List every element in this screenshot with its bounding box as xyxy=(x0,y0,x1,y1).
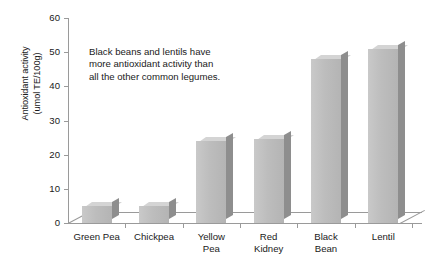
bar xyxy=(82,206,112,223)
y-axis-tick-label: 20 xyxy=(34,150,60,160)
bar-front-face xyxy=(368,49,398,223)
y-axis-tick-label: 0 xyxy=(34,218,60,228)
bar-side-face xyxy=(112,198,119,219)
bar-side-face xyxy=(284,131,291,219)
chart-annotation: Black beans and lentils have more antiox… xyxy=(89,46,294,83)
bar xyxy=(139,206,169,223)
x-axis-tick-mark xyxy=(412,223,413,228)
x-axis-tick-mark xyxy=(297,223,298,228)
bar-front-face xyxy=(82,206,112,223)
bar-side-face xyxy=(169,198,176,219)
x-axis-tick-mark xyxy=(183,223,184,228)
x-axis-category-label: Red Kidney xyxy=(240,231,297,254)
x-axis-category-label: Black Bean xyxy=(297,231,354,254)
y-axis-tick-label: 10 xyxy=(34,184,60,194)
x-axis-tick-mark xyxy=(355,223,356,228)
bar xyxy=(311,59,341,223)
bar-side-face xyxy=(341,51,348,219)
x-axis-category-label: Chickpea xyxy=(125,231,182,243)
bar-side-face xyxy=(226,133,233,219)
y-axis-tick-label: 40 xyxy=(34,81,60,91)
bar-front-face xyxy=(254,139,284,223)
x-axis-tick-mark xyxy=(125,223,126,228)
bar-front-face xyxy=(139,206,169,223)
bar xyxy=(254,139,284,223)
bar-front-face xyxy=(311,59,341,223)
x-axis-category-label: Lentil xyxy=(355,231,412,243)
y-axis-tick-label: 50 xyxy=(34,47,60,57)
bar xyxy=(196,141,226,223)
bar xyxy=(368,49,398,223)
bar-front-face xyxy=(196,141,226,223)
x-axis-category-label: Green Pea xyxy=(68,231,125,243)
x-axis-category-label: Yellow Pea xyxy=(183,231,240,254)
y-axis-tick-label: 60 xyxy=(34,13,60,23)
y-axis-tick-label: 30 xyxy=(34,116,60,126)
x-axis-tick-mark xyxy=(240,223,241,228)
x-axis-baseline xyxy=(68,223,422,224)
bar-chart: Antioxidant activity (umol TE/100g) 0102… xyxy=(0,0,438,264)
bar-side-face xyxy=(398,41,405,219)
y-axis-line xyxy=(68,18,69,224)
